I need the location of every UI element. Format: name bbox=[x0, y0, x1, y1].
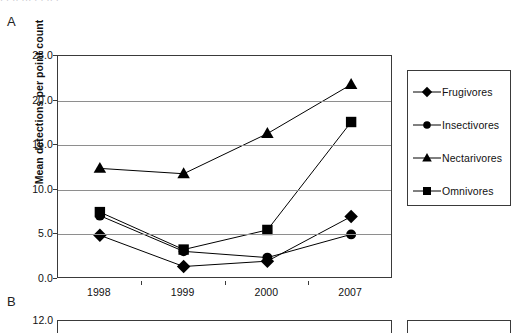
triangle-marker bbox=[94, 162, 106, 173]
series-line bbox=[100, 122, 351, 250]
series-line bbox=[100, 85, 351, 174]
gridline bbox=[58, 101, 391, 102]
legend-label: Insectivores bbox=[442, 119, 499, 131]
panel-b-top-tick-label: 12.0 bbox=[3, 314, 53, 326]
square-marker bbox=[412, 184, 442, 198]
diamond-marker bbox=[344, 210, 358, 224]
y-axis-tick-labels: 0.05.010.015.020.025.0 bbox=[3, 55, 53, 278]
legend-item-omnivores[interactable]: Omnivores bbox=[412, 184, 515, 198]
triangle-marker bbox=[177, 167, 189, 178]
y-tick-label: 0.0 bbox=[9, 272, 53, 284]
circle-marker bbox=[423, 121, 431, 129]
diamond-marker bbox=[422, 87, 432, 97]
plot-area-panel-a bbox=[57, 55, 392, 278]
legend-item-nectarivores[interactable]: Nectarivores bbox=[412, 151, 515, 165]
plot-area-panel-b bbox=[57, 320, 392, 333]
panel-b-letter: B bbox=[7, 294, 16, 309]
legend-label: Frugivores bbox=[442, 86, 493, 98]
series-line bbox=[100, 217, 351, 267]
gridline bbox=[58, 190, 391, 191]
x-tick-mark bbox=[308, 281, 309, 285]
legend-panel-b bbox=[407, 320, 511, 333]
y-tick-label: 25.0 bbox=[9, 49, 53, 61]
diamond-marker bbox=[412, 85, 442, 99]
square-marker bbox=[178, 244, 188, 254]
y-tick-label: 15.0 bbox=[9, 138, 53, 150]
legend-item-insectivores[interactable]: Insectivores bbox=[412, 118, 515, 132]
y-tick-label: 20.0 bbox=[9, 94, 53, 106]
triangle-marker bbox=[345, 78, 357, 89]
panel-a: A Mean detections per point count 0.05.0… bbox=[0, 0, 508, 290]
series-nectarivores bbox=[94, 78, 358, 178]
square-marker bbox=[423, 187, 431, 195]
diamond-marker bbox=[177, 260, 191, 274]
circle-marker bbox=[262, 253, 272, 263]
gridline bbox=[58, 145, 391, 146]
series-insectivores bbox=[95, 211, 356, 263]
gridline bbox=[58, 234, 391, 235]
y-tick-mark bbox=[53, 278, 57, 279]
legend-label: Omnivores bbox=[442, 185, 494, 197]
triangle-marker bbox=[261, 127, 273, 138]
triangle-marker bbox=[422, 153, 432, 161]
circle-marker bbox=[412, 118, 442, 132]
legend-label: Nectarivores bbox=[442, 152, 502, 164]
panel-b: B 12.0 bbox=[0, 290, 508, 333]
square-marker bbox=[346, 117, 356, 127]
panel-a-letter: A bbox=[7, 14, 16, 29]
y-tick-label: 10.0 bbox=[9, 183, 53, 195]
legend-panel-a: FrugivoresInsectivoresNectarivoresOmnivo… bbox=[407, 70, 511, 206]
series-frugivores bbox=[93, 210, 358, 273]
triangle-marker bbox=[412, 151, 442, 165]
x-tick-mark bbox=[225, 281, 226, 285]
y-tick-label: 5.0 bbox=[9, 227, 53, 239]
series-overlay bbox=[58, 56, 393, 279]
square-marker bbox=[95, 207, 105, 217]
x-tick-mark bbox=[141, 281, 142, 285]
legend-item-frugivores[interactable]: Frugivores bbox=[412, 85, 515, 99]
